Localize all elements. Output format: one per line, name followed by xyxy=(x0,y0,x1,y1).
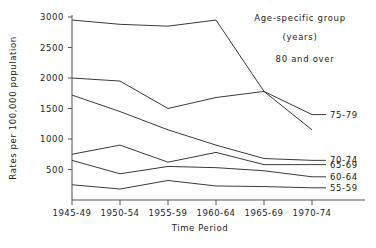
series-line-65-69 xyxy=(72,145,312,165)
series-line-60-64 xyxy=(72,160,312,176)
x-axis-tick-group xyxy=(72,200,312,205)
x-tick-label: 1955-59 xyxy=(148,208,187,218)
y-tick-label: 2000 xyxy=(40,73,64,83)
line-chart-canvas: 50010001500200025003000 1945-491950-5419… xyxy=(0,0,376,248)
series-line-55-59 xyxy=(72,180,312,189)
y-tick-label: 1500 xyxy=(40,104,64,114)
legend-series-80-and-over: 80 and over xyxy=(276,54,335,64)
x-tick-label: 1970-74 xyxy=(292,208,331,218)
series-lines-group xyxy=(72,20,312,189)
legend-title-line1: Age-specific group xyxy=(254,13,346,23)
x-axis-title: Time Period xyxy=(171,223,229,233)
chart-figure: 50010001500200025003000 1945-491950-5419… xyxy=(0,0,376,248)
x-tick-label: 1960-64 xyxy=(196,208,235,218)
y-tick-label: 1000 xyxy=(40,134,64,144)
x-tick-label: 1950-54 xyxy=(100,208,139,218)
x-tick-label: 1945-49 xyxy=(52,208,91,218)
series-line-75-79 xyxy=(72,78,312,115)
y-axis-tick-group xyxy=(68,17,72,170)
legend-title-line2: (years) xyxy=(283,32,318,42)
x-tick-label: 1965-69 xyxy=(244,208,283,218)
y-tick-label: 2500 xyxy=(40,43,64,53)
series-label-65-69: 65-69 xyxy=(330,160,358,170)
y-tick-label: 3000 xyxy=(40,12,64,22)
series-right-labels: 75-7970-7465-6960-6455-59 xyxy=(312,110,358,193)
y-tick-label: 500 xyxy=(46,165,64,175)
series-line-80-and-over xyxy=(72,20,312,130)
y-axis-tick-labels: 50010001500200025003000 xyxy=(40,12,64,175)
x-axis-tick-labels: 1945-491950-541955-591960-641965-691970-… xyxy=(52,208,331,218)
series-label-60-64: 60-64 xyxy=(330,172,358,182)
series-label-55-59: 55-59 xyxy=(330,183,358,193)
series-line-70-74 xyxy=(72,95,312,160)
series-label-75-79: 75-79 xyxy=(330,110,358,120)
y-axis-title: Rates per 100,000 population xyxy=(8,36,18,179)
